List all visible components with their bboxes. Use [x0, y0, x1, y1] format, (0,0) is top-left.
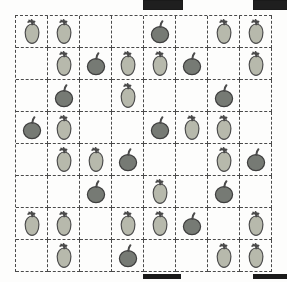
grid-cell-r8-c6[interactable]	[176, 240, 208, 272]
grid-cell-r6-c4[interactable]	[112, 176, 144, 208]
grid-cell-r3-c4[interactable]	[112, 80, 144, 112]
grid-cell-r6-c2[interactable]	[48, 176, 80, 208]
pear-icon	[147, 210, 173, 238]
grid-cell-r1-c7[interactable]	[208, 16, 240, 48]
grid-cell-r1-c6[interactable]	[176, 16, 208, 48]
apple-icon	[211, 82, 237, 110]
grid-cell-r5-c1[interactable]	[16, 144, 48, 176]
grid-cell-r4-c1[interactable]	[16, 112, 48, 144]
grid-cell-r1-c8[interactable]	[240, 16, 272, 48]
grid-cell-r4-c7[interactable]	[208, 112, 240, 144]
pear-icon	[51, 210, 77, 238]
grid-cell-r7-c4[interactable]	[112, 208, 144, 240]
apple-icon	[115, 242, 141, 270]
grid-cell-r4-c8[interactable]	[240, 112, 272, 144]
grid-cell-r8-c3[interactable]	[80, 240, 112, 272]
apple-icon	[243, 146, 269, 174]
grid-cell-r1-c5[interactable]	[144, 16, 176, 48]
grid-cell-r6-c5[interactable]	[144, 176, 176, 208]
pear-icon	[51, 146, 77, 174]
grid-cell-r7-c2[interactable]	[48, 208, 80, 240]
apple-icon	[19, 114, 45, 142]
grid-cell-r8-c4[interactable]	[112, 240, 144, 272]
pear-icon	[243, 242, 269, 270]
grid-cell-r7-c6[interactable]	[176, 208, 208, 240]
grid-cell-r2-c3[interactable]	[80, 48, 112, 80]
grid-cell-r3-c5[interactable]	[144, 80, 176, 112]
grid-cell-r6-c1[interactable]	[16, 176, 48, 208]
pear-icon	[147, 50, 173, 78]
pear-icon	[51, 114, 77, 142]
fruit-grid	[15, 15, 272, 272]
grid-cell-r6-c7[interactable]	[208, 176, 240, 208]
grid-cell-r8-c8[interactable]	[240, 240, 272, 272]
grid-cell-r3-c3[interactable]	[80, 80, 112, 112]
grid-cell-r4-c3[interactable]	[80, 112, 112, 144]
grid-cell-r4-c5[interactable]	[144, 112, 176, 144]
grid-cell-r7-c5[interactable]	[144, 208, 176, 240]
grid-cell-r7-c1[interactable]	[16, 208, 48, 240]
pear-icon	[243, 18, 269, 46]
grid-cell-r5-c4[interactable]	[112, 144, 144, 176]
pear-icon	[115, 82, 141, 110]
registration-mark-bottom-left	[143, 274, 181, 279]
grid-cell-r8-c2[interactable]	[48, 240, 80, 272]
grid-cell-r5-c3[interactable]	[80, 144, 112, 176]
grid-cell-r6-c3[interactable]	[80, 176, 112, 208]
grid-cell-r2-c7[interactable]	[208, 48, 240, 80]
grid-cell-r2-c1[interactable]	[16, 48, 48, 80]
apple-icon	[83, 178, 109, 206]
pear-icon	[179, 114, 205, 142]
pear-icon	[83, 146, 109, 174]
grid-cell-r7-c3[interactable]	[80, 208, 112, 240]
grid-cell-r5-c8[interactable]	[240, 144, 272, 176]
grid-cell-r4-c6[interactable]	[176, 112, 208, 144]
grid-cell-r2-c5[interactable]	[144, 48, 176, 80]
apple-icon	[179, 210, 205, 238]
grid-cell-r5-c2[interactable]	[48, 144, 80, 176]
registration-mark-top-right	[253, 0, 287, 10]
apple-icon	[51, 82, 77, 110]
grid-cell-r2-c2[interactable]	[48, 48, 80, 80]
grid-cell-r5-c7[interactable]	[208, 144, 240, 176]
registration-mark-top-left	[143, 0, 183, 10]
apple-icon	[147, 114, 173, 142]
apple-icon	[211, 178, 237, 206]
pear-icon	[51, 242, 77, 270]
grid-cell-r8-c5[interactable]	[144, 240, 176, 272]
grid-cell-r7-c8[interactable]	[240, 208, 272, 240]
apple-icon	[115, 146, 141, 174]
grid-cell-r8-c7[interactable]	[208, 240, 240, 272]
pear-icon	[211, 146, 237, 174]
grid-cell-r3-c8[interactable]	[240, 80, 272, 112]
pear-icon	[147, 178, 173, 206]
grid-cell-r1-c4[interactable]	[112, 16, 144, 48]
grid-cell-r3-c6[interactable]	[176, 80, 208, 112]
pear-icon	[243, 50, 269, 78]
grid-cell-r8-c1[interactable]	[16, 240, 48, 272]
pear-icon	[243, 210, 269, 238]
grid-cell-r2-c4[interactable]	[112, 48, 144, 80]
apple-icon	[83, 50, 109, 78]
worksheet-page	[0, 0, 287, 282]
grid-cell-r5-c5[interactable]	[144, 144, 176, 176]
grid-cell-r1-c2[interactable]	[48, 16, 80, 48]
grid-cell-r4-c2[interactable]	[48, 112, 80, 144]
apple-icon	[147, 18, 173, 46]
grid-cell-r2-c8[interactable]	[240, 48, 272, 80]
grid-cell-r1-c1[interactable]	[16, 16, 48, 48]
grid-cell-r3-c1[interactable]	[16, 80, 48, 112]
grid-cell-r6-c6[interactable]	[176, 176, 208, 208]
pear-icon	[51, 18, 77, 46]
grid-cell-r1-c3[interactable]	[80, 16, 112, 48]
grid-cell-r6-c8[interactable]	[240, 176, 272, 208]
pear-icon	[19, 18, 45, 46]
grid-cell-r4-c4[interactable]	[112, 112, 144, 144]
pear-icon	[115, 210, 141, 238]
apple-icon	[179, 50, 205, 78]
grid-cell-r3-c7[interactable]	[208, 80, 240, 112]
grid-cell-r7-c7[interactable]	[208, 208, 240, 240]
grid-cell-r2-c6[interactable]	[176, 48, 208, 80]
grid-cell-r5-c6[interactable]	[176, 144, 208, 176]
grid-cell-r3-c2[interactable]	[48, 80, 80, 112]
